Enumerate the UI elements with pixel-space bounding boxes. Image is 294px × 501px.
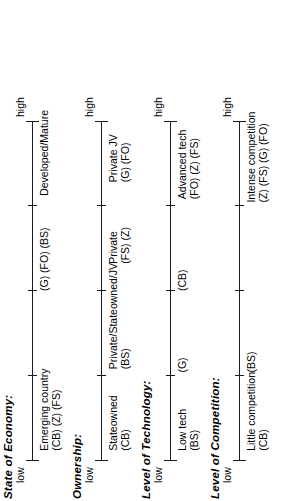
annotation-private-jv: Private JV(G) (FO) bbox=[107, 134, 131, 182]
scale-block-state-of-economy: State of Economy:lowhighEmerging country… bbox=[2, 0, 68, 501]
annotation-emerging-country: Emerging country(CB) (Z) (FS) bbox=[38, 369, 62, 451]
annotation-low-tech: Low tech(BS) bbox=[176, 409, 200, 451]
axis-tick-level-of-competition-2 bbox=[235, 290, 244, 291]
annotation-text-intense-competition: Intense competition bbox=[245, 112, 257, 203]
annotation-private-stateowned-jv: Private/Stateowned/JV(BS) bbox=[107, 263, 131, 369]
annotation-text-private: Private bbox=[107, 227, 119, 264]
annotation-codes-private-jv: (G) (FO) bbox=[119, 134, 131, 182]
annotation-private: Private(FS) (Z) bbox=[107, 227, 131, 264]
annotation-g-code: (G) bbox=[176, 357, 188, 372]
axis-tick-state-of-economy-3 bbox=[28, 205, 37, 206]
axis-low-label-state-of-economy: low bbox=[14, 467, 26, 483]
annotation-text-little-competition: Little competition bbox=[245, 372, 257, 451]
axis-end-cap-low-level-of-technology bbox=[164, 460, 177, 461]
annotation-codes-g-code: (G) bbox=[176, 357, 188, 372]
annotation-codes-bs-code: (BS) bbox=[245, 352, 257, 373]
scale-block-ownership: Ownership:lowhighStateowned(CB)Private/S… bbox=[71, 0, 137, 501]
annotation-cb-code: (CB) bbox=[176, 269, 188, 291]
annotation-text-developed-mature: Developed/Mature bbox=[38, 110, 50, 196]
annotation-codes-low-tech: (BS) bbox=[188, 409, 200, 451]
scale-title-level-of-competition: Level of Competition: bbox=[209, 377, 221, 499]
annotation-text-private-stateowned-jv: Private/Stateowned/JV bbox=[107, 263, 119, 369]
annotation-codes-emerging-country: (CB) (Z) (FS) bbox=[50, 369, 62, 451]
annotation-text-stateowned: Stateowned bbox=[107, 395, 119, 450]
axis-end-cap-low-ownership bbox=[95, 460, 108, 461]
annotation-text-low-tech: Low tech bbox=[176, 409, 188, 451]
axis-tick-state-of-economy-1 bbox=[28, 375, 37, 376]
axis-high-label-level-of-technology: high bbox=[152, 97, 164, 117]
annotation-codes-advanced-tech: (FO) (Z) (FS) bbox=[188, 130, 200, 199]
axis-high-label-level-of-competition: high bbox=[221, 97, 233, 117]
axis-line-ownership bbox=[101, 121, 102, 461]
axis-low-label-ownership: low bbox=[83, 467, 95, 483]
annotation-codes-private: (FS) (Z) bbox=[119, 227, 131, 264]
annotation-advanced-tech: Advanced tech(FO) (Z) (FS) bbox=[176, 130, 200, 199]
scale-title-level-of-technology: Level of Technology: bbox=[140, 380, 152, 499]
axis-line-level-of-technology bbox=[170, 121, 171, 461]
annotation-developed-mature: Developed/Mature bbox=[38, 110, 50, 196]
axis-line-level-of-competition bbox=[239, 121, 240, 461]
annotation-codes-stateowned: (CB) bbox=[119, 395, 131, 450]
scale-block-level-of-competition: Level of Competition:lowhighLittle compe… bbox=[209, 0, 275, 501]
annotation-codes-mid-codes: (G) (FO) (BS) bbox=[38, 227, 50, 291]
rotated-figure-wrapper: State of Economy:lowhighEmerging country… bbox=[0, 0, 294, 501]
axis-high-label-ownership: high bbox=[83, 97, 95, 117]
axis-tick-level-of-competition-1 bbox=[235, 375, 244, 376]
annotation-mid-codes: (G) (FO) (BS) bbox=[38, 227, 50, 291]
axis-tick-state-of-economy-2 bbox=[28, 290, 37, 291]
scales-figure: State of Economy:lowhighEmerging country… bbox=[0, 0, 294, 501]
axis-tick-ownership-1 bbox=[97, 375, 106, 376]
annotation-bs-code: (BS) bbox=[245, 352, 257, 373]
axis-high-label-state-of-economy: high bbox=[14, 97, 26, 117]
annotation-text-advanced-tech: Advanced tech bbox=[176, 130, 188, 199]
annotation-text-private-jv: Private JV bbox=[107, 134, 119, 182]
axis-end-cap-low-state-of-economy bbox=[26, 460, 39, 461]
annotation-stateowned: Stateowned(CB) bbox=[107, 395, 131, 450]
annotation-intense-competition: Intense competition(Z) (FS) (G) (FO) bbox=[245, 112, 269, 203]
scale-title-state-of-economy: State of Economy: bbox=[2, 395, 14, 499]
annotation-codes-private-stateowned-jv: (BS) bbox=[119, 263, 131, 369]
axis-end-cap-high-level-of-technology bbox=[164, 121, 177, 122]
axis-low-label-level-of-competition: low bbox=[221, 467, 233, 483]
axis-line-state-of-economy bbox=[32, 121, 33, 461]
annotation-little-competition: Little competition(CB) bbox=[245, 372, 269, 451]
annotation-codes-intense-competition: (Z) (FS) (G) (FO) bbox=[257, 112, 269, 203]
annotation-text-emerging-country: Emerging country bbox=[38, 369, 50, 451]
axis-tick-ownership-2 bbox=[97, 290, 106, 291]
axis-end-cap-low-level-of-competition bbox=[233, 460, 246, 461]
axis-tick-level-of-technology-3 bbox=[166, 205, 175, 206]
annotation-codes-cb-code: (CB) bbox=[176, 269, 188, 291]
axis-tick-level-of-competition-3 bbox=[235, 205, 244, 206]
axis-tick-level-of-technology-1 bbox=[166, 375, 175, 376]
axis-end-cap-high-ownership bbox=[95, 121, 108, 122]
annotation-codes-little-competition: (CB) bbox=[257, 372, 269, 451]
axis-tick-level-of-technology-2 bbox=[166, 290, 175, 291]
scale-block-level-of-technology: Level of Technology:lowhighLow tech(BS)(… bbox=[140, 0, 206, 501]
axis-tick-ownership-3 bbox=[97, 205, 106, 206]
axis-low-label-level-of-technology: low bbox=[152, 467, 164, 483]
scale-title-ownership: Ownership: bbox=[71, 434, 83, 499]
